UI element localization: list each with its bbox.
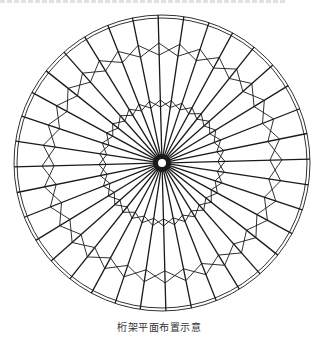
spoke <box>163 17 184 155</box>
spoke <box>170 164 308 185</box>
figure-caption: 桁架平面布置示意 <box>0 319 318 334</box>
spoke <box>165 170 216 300</box>
hub-hole <box>158 159 166 167</box>
spoke <box>169 86 288 159</box>
center-hub <box>153 154 171 172</box>
spoke <box>16 141 154 162</box>
spoke <box>24 166 154 217</box>
spoke <box>169 109 299 160</box>
spoke <box>162 171 166 311</box>
spoke <box>140 171 161 309</box>
spoke <box>170 159 310 163</box>
spoke <box>166 170 239 289</box>
spoke <box>85 37 158 156</box>
truss-plan-diagram <box>0 0 318 320</box>
spoke <box>108 25 159 155</box>
spoke <box>14 163 154 167</box>
spoke <box>158 15 162 155</box>
spoke <box>36 167 155 240</box>
